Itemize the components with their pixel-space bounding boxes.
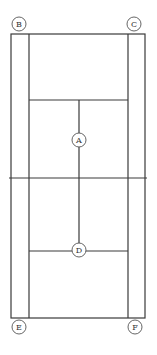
doubles-court-outline [11,34,145,318]
marker-e: E [12,320,26,334]
marker-f-label: F [132,323,138,332]
marker-a: A [72,133,86,147]
marker-d: D [72,243,86,257]
marker-f: F [128,320,142,334]
marker-b-label: B [16,20,22,29]
marker-d-label: D [76,246,82,255]
marker-b: B [12,17,26,31]
marker-a-label: A [75,136,82,145]
marker-c-label: C [131,20,137,29]
tennis-court-diagram: B C A D E F [0,0,157,355]
marker-c: C [127,17,141,31]
marker-e-label: E [16,323,22,332]
